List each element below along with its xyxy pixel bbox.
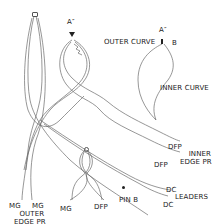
central-loop-strand-a <box>60 40 180 152</box>
label-leaders: LEADERS <box>175 193 208 201</box>
inset-inner-curve <box>154 44 173 120</box>
label-mg-left: MG <box>9 202 21 210</box>
label-b: B <box>172 39 177 47</box>
label-mg-right: MG <box>32 202 44 210</box>
inset-a-pin <box>161 39 163 44</box>
label-inner-edge-pr-line2: EDGE PR <box>180 158 212 166</box>
label-inner-edge-pr-line1: INNER <box>180 150 212 158</box>
label-a-double-prime-main: A″ <box>67 18 75 26</box>
knot-strands <box>0 0 224 224</box>
label-outer-edge-pr: OUTER EDGE PR <box>14 210 46 224</box>
dc-leader-strand-a <box>40 120 170 190</box>
label-outer-edge-pr-line2: EDGE PR <box>14 218 46 224</box>
center-small-loop-strand-d <box>72 152 90 200</box>
label-mg-center: MG <box>60 205 72 213</box>
label-outer-edge-pr-line1: OUTER <box>14 210 46 218</box>
top-loop-pin-ring <box>32 12 38 17</box>
label-pin-b: PIN B <box>119 196 138 204</box>
central-loop-twist <box>74 44 82 55</box>
a-pin-triangle <box>69 32 75 37</box>
central-loop-strand-b <box>24 40 90 170</box>
label-a-double-prime-inset: A″ <box>159 26 167 34</box>
label-inner-edge-pr: INNER EDGE PR <box>180 150 212 166</box>
label-inner-curve: INNER CURVE <box>160 84 209 92</box>
label-dc-lower: DC <box>163 201 173 209</box>
knot-diagram: A″ A″ OUTER CURVE B INNER CURVE DFP INNE… <box>0 0 224 224</box>
center-loop-pin-ring <box>84 147 89 152</box>
label-dfp-center: DFP <box>94 203 108 211</box>
central-loop-strand-d <box>26 42 87 170</box>
inset-outer-curve <box>138 44 162 120</box>
label-dfp-lower: DFP <box>154 161 168 169</box>
label-outer-curve: OUTER CURVE <box>104 38 155 46</box>
pin-b-dot <box>122 186 125 189</box>
